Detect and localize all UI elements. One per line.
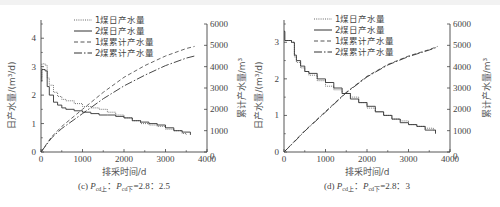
caption-c: (c) Pcd上：Pcd下=2.8：2.5 <box>78 181 171 193</box>
legend-label: 2煤日产水量 <box>335 25 385 35</box>
legend-label: 2煤累计产水量 <box>95 48 154 58</box>
chart-panel-d: 0100020003000400001230100020003000400050… <box>253 14 492 193</box>
y-right-tick-label: 3000 <box>210 83 229 93</box>
y-right-tick-label: 1000 <box>453 126 472 136</box>
y-right-tick-label: 0 <box>210 151 215 161</box>
figure-canvas: 0100020003000400001234010002000300040005… <box>0 0 500 207</box>
x-tick-label: 3000 <box>157 154 176 164</box>
legend-label: 2煤日产水量 <box>95 26 145 36</box>
y-right-tick-label: 6000 <box>210 19 229 29</box>
x-tick-label: 1000 <box>317 154 336 164</box>
y-left-tick-label: 1 <box>275 110 280 120</box>
y-left-tick-label: 4 <box>32 33 37 43</box>
y-axis-left-label-c: 日产水量/(m³/d) <box>6 61 17 128</box>
y-axis-right-label-c: 累计产水量/m³ <box>236 57 247 118</box>
legend-c: 1煤日产水量 2煤日产水量 1煤累计产水量 2煤累计产水量 <box>74 15 154 58</box>
y-right-tick-label: 4000 <box>453 62 472 72</box>
y-axis-right-label-d: 累计产水量/m³ <box>481 57 492 118</box>
y-right-tick-label: 1000 <box>210 126 229 136</box>
y-axis-left-label-d: 日产水量/(m³/d) <box>253 61 264 128</box>
x-tick-label: 2000 <box>115 154 134 164</box>
x-tick-label: 0 <box>282 154 287 164</box>
legend-label: 1煤日产水量 <box>95 15 145 25</box>
series-line <box>41 56 195 152</box>
x-tick-label: 2000 <box>358 154 377 164</box>
y-left-tick-label: 2 <box>275 74 280 84</box>
y-right-tick-label: 4000 <box>210 62 229 72</box>
plot-area-c <box>41 46 195 152</box>
y-left-tick-label: 0 <box>275 147 280 157</box>
series-line <box>284 47 438 152</box>
legend-d: 1煤日产水量 2煤日产水量 1煤累计产水量 2煤累计产水量 <box>314 14 394 57</box>
series-line <box>41 64 186 135</box>
x-tick-label: 1000 <box>74 154 93 164</box>
y-left-tick-label: 2 <box>32 90 37 100</box>
x-axis-label-c: 排采时间/d <box>102 166 147 177</box>
y-right-tick-label: 2000 <box>453 104 472 114</box>
y-right-tick-label: 0 <box>453 151 458 161</box>
x-tick-label: 3000 <box>400 154 419 164</box>
y-left-tick-label: 0 <box>32 147 37 157</box>
caption-d: (d) Pcd上：Pcd下=2.8：3 <box>324 181 410 193</box>
y-right-tick-label: 3000 <box>453 83 472 93</box>
y-left-tick-label: 3 <box>32 62 37 72</box>
y-right-tick-label: 5000 <box>453 40 472 50</box>
series-line <box>284 46 438 152</box>
y-right-tick-label: 2000 <box>210 104 229 114</box>
legend-label: 1煤日产水量 <box>335 14 385 24</box>
legend-label: 2煤累计产水量 <box>335 47 394 57</box>
y-left-tick-label: 3 <box>275 37 280 47</box>
chart-panel-c: 0100020003000400001234010002000300040005… <box>6 15 247 193</box>
y-right-tick-label: 6000 <box>453 19 472 29</box>
y-right-tick-label: 5000 <box>210 40 229 50</box>
x-tick-label: 0 <box>39 154 44 164</box>
y-left-tick-label: 1 <box>32 119 37 129</box>
legend-label: 1煤累计产水量 <box>95 37 154 47</box>
legend-label: 1煤累计产水量 <box>335 36 394 46</box>
x-axis-label-d: 排采时间/d <box>345 166 390 177</box>
